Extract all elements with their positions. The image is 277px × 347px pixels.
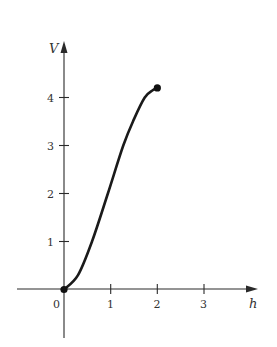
- x-axis-title: h: [249, 296, 257, 311]
- start-point-dot: [60, 286, 67, 293]
- y-tick-label-3: 3: [47, 140, 54, 153]
- x-tick-label-1: 1: [107, 298, 114, 311]
- y-axis-arrow-icon: [61, 41, 68, 53]
- y-tick-label-1: 1: [47, 236, 54, 249]
- y-tick-label-4: 4: [47, 92, 54, 105]
- end-point-dot: [154, 84, 161, 91]
- data-curve: [64, 88, 157, 290]
- x-tick-label-3: 3: [200, 298, 207, 311]
- origin-label: 0: [53, 298, 60, 311]
- x-axis-arrow-icon: [246, 286, 258, 293]
- y-tick-label-2: 2: [47, 188, 54, 201]
- y-axis-title: V: [49, 41, 60, 56]
- chart: 0 1 2 3 1 2 3 4 V h: [0, 0, 277, 347]
- x-tick-label-2: 2: [154, 298, 161, 311]
